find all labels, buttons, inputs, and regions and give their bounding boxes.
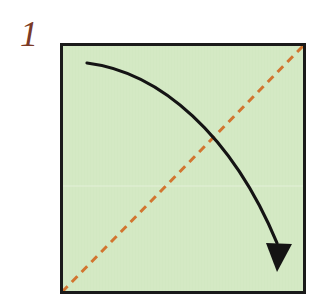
diagram-canvas: 1 (0, 0, 329, 304)
origami-step-diagram: 1 (0, 0, 329, 304)
step-number: 1 (20, 14, 38, 54)
